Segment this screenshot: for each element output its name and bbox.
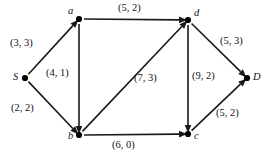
edge-label-a-b: (4, 1) bbox=[46, 68, 69, 79]
node-label-a: a bbox=[68, 6, 73, 17]
node-dot-d bbox=[185, 17, 191, 23]
node-label-S: S bbox=[13, 72, 18, 83]
node-dot-a bbox=[76, 16, 82, 22]
node-label-b: b bbox=[68, 131, 73, 142]
edge-d-D bbox=[192, 24, 241, 72]
edge-label-b-c: (6, 0) bbox=[112, 140, 135, 151]
node-dot-b bbox=[76, 132, 82, 138]
edge-label-b-d: (7, 3) bbox=[134, 73, 157, 84]
node-dot-D bbox=[244, 75, 250, 81]
edge-b-d bbox=[82, 27, 181, 132]
edge-b-c bbox=[84, 134, 179, 135]
edge-label-a-d: (5, 2) bbox=[118, 3, 141, 14]
edge-S-b bbox=[28, 82, 72, 129]
edge-a-d bbox=[84, 19, 179, 20]
node-label-D: D bbox=[253, 72, 261, 83]
edge-label-S-a: (3, 3) bbox=[10, 38, 33, 49]
node-label-c: c bbox=[194, 131, 199, 142]
edge-label-c-D: (5, 2) bbox=[216, 108, 239, 119]
node-dot-S bbox=[22, 75, 28, 81]
node-dot-c bbox=[185, 131, 191, 137]
node-label-d: d bbox=[194, 8, 199, 19]
edge-label-S-b: (2, 2) bbox=[11, 103, 34, 114]
edge-label-d-c: (9, 2) bbox=[192, 71, 215, 82]
edge-label-d-D: (5, 3) bbox=[220, 36, 243, 47]
flow-network-figure: SabcdD (3, 3)(2, 2)(5, 2)(4, 1)(7, 3)(6,… bbox=[0, 0, 275, 159]
